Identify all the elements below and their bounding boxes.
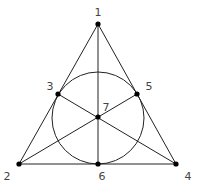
fano-plane-diagram: 1234567 xyxy=(0,0,198,188)
point-6 xyxy=(95,161,100,166)
point-2 xyxy=(16,161,21,166)
line-4-3 xyxy=(58,94,176,164)
point-label-2: 2 xyxy=(4,170,11,183)
point-4 xyxy=(173,161,178,166)
lines xyxy=(19,24,176,164)
point-label-6: 6 xyxy=(99,170,106,183)
point-label-5: 5 xyxy=(146,80,153,93)
point-7 xyxy=(95,114,100,119)
line-2-5 xyxy=(19,94,137,164)
point-5 xyxy=(134,91,139,96)
point-label-1: 1 xyxy=(95,6,102,19)
point-1 xyxy=(95,21,100,26)
point-label-4: 4 xyxy=(185,170,192,183)
point-label-7: 7 xyxy=(103,101,110,114)
point-3 xyxy=(55,91,60,96)
point-label-3: 3 xyxy=(47,80,54,93)
